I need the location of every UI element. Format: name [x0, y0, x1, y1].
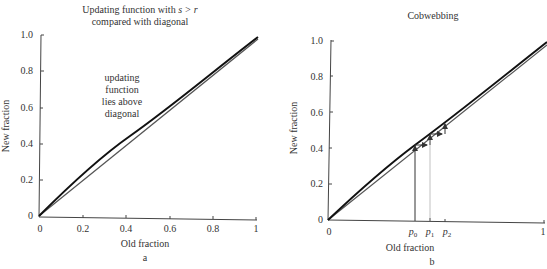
y-axis — [328, 40, 331, 220]
svg-text:0.6: 0.6 — [164, 223, 177, 234]
svg-text:0.4: 0.4 — [21, 138, 34, 149]
y-tick-labels: 1.0 0.8 0.6 0.4 0.2 0 — [21, 29, 34, 221]
panel-label-a: a — [143, 252, 148, 263]
panel-label-b: b — [430, 256, 435, 267]
x-tick-labels: 0 p0 p1 p2 1 — [327, 226, 546, 239]
svg-text:1: 1 — [541, 226, 546, 237]
chart-a: Updating function with s > r compared wi… — [0, 4, 259, 263]
svg-text:p2: p2 — [442, 226, 452, 239]
svg-text:0.6: 0.6 — [311, 107, 324, 118]
x-axis-label: Old fraction — [121, 238, 170, 249]
svg-text:0: 0 — [327, 226, 332, 237]
y-axis-label: New fraction — [0, 100, 11, 152]
chart-a-title-line1: Updating function with s > r — [82, 4, 197, 15]
svg-text:1: 1 — [254, 223, 259, 234]
svg-text:function: function — [105, 84, 138, 95]
x-axis — [328, 220, 545, 223]
x-axis — [39, 217, 257, 220]
svg-text:0.2: 0.2 — [311, 178, 324, 189]
diagonal-line — [328, 45, 547, 220]
chart-b: Cobwebbing 1.0 0.8 0.6 0.4 0.2 0 0 p0 p1… — [288, 10, 547, 267]
svg-text:p0: p0 — [408, 226, 418, 239]
y-tick-labels: 1.0 0.8 0.6 0.4 0.2 0 — [311, 35, 324, 225]
diagonal-line — [39, 39, 258, 216]
x-axis-label: Old fraction — [386, 242, 435, 253]
chart-a-title-line2: compared with diagonal — [92, 16, 189, 27]
svg-text:0.8: 0.8 — [311, 71, 324, 82]
annotation: updating function lies above diagonal — [102, 72, 143, 119]
y-axis — [39, 35, 41, 217]
figure: Updating function with s > r compared wi… — [0, 0, 547, 269]
chart-b-title: Cobwebbing — [407, 10, 458, 21]
svg-text:0: 0 — [28, 210, 33, 221]
svg-text:0.4: 0.4 — [120, 223, 133, 234]
svg-text:lies above: lies above — [102, 96, 143, 107]
svg-text:0.2: 0.2 — [21, 174, 34, 185]
svg-text:1.0: 1.0 — [311, 35, 324, 46]
svg-text:0.8: 0.8 — [207, 223, 220, 234]
svg-text:p1: p1 — [425, 226, 435, 239]
svg-text:0.8: 0.8 — [21, 65, 34, 76]
svg-text:1.0: 1.0 — [21, 29, 34, 40]
svg-text:0: 0 — [38, 223, 43, 234]
svg-text:0.6: 0.6 — [21, 102, 34, 113]
svg-text:0.4: 0.4 — [311, 143, 324, 154]
svg-text:updating: updating — [105, 72, 140, 83]
svg-text:0.2: 0.2 — [77, 223, 90, 234]
x-tick-labels: 0 0.2 0.4 0.6 0.8 1 — [38, 223, 259, 234]
svg-text:diagonal: diagonal — [105, 108, 140, 119]
svg-text:0: 0 — [318, 214, 323, 225]
cobweb-path — [415, 124, 445, 221]
y-axis-label: New fraction — [288, 102, 299, 154]
